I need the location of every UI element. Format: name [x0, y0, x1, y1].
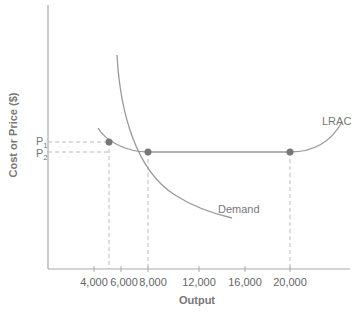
demand-label: Demand: [218, 203, 260, 215]
x-tick-8000: 8,000: [139, 276, 167, 288]
chart: P1 P2 LRAC Demand 4,000 6,000 8,000 12,0…: [0, 0, 362, 316]
x-tick-12000: 12,000: [182, 276, 216, 288]
x-axis-title: Output: [179, 294, 215, 306]
point-p2-20000: [287, 149, 294, 156]
y-axis-title: Cost or Price ($): [7, 92, 19, 177]
x-tick-4000: 4,000: [80, 276, 108, 288]
demand-curve: [117, 55, 232, 218]
lrac-label: LRAC: [322, 115, 351, 127]
x-tick-20000: 20,000: [273, 276, 307, 288]
point-p2-8000: [145, 149, 152, 156]
lrac-curve: [98, 122, 342, 152]
x-tick-16000: 16,000: [228, 276, 262, 288]
point-p1: [106, 139, 113, 146]
x-tick-6000: 6,000: [110, 276, 138, 288]
